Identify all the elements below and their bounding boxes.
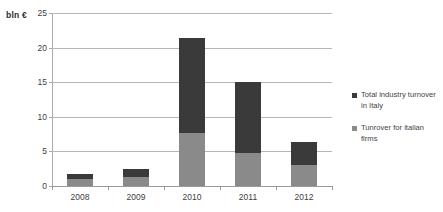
- legend-item-turnover-italian-firms: Tunrover for italian firms: [352, 123, 440, 144]
- bar-group-2008[interactable]: [67, 13, 93, 186]
- x-axis-label-2011: 2011: [239, 192, 257, 202]
- bar-segment-total-industry-2011[interactable]: [235, 82, 261, 153]
- y-tick-mark-10: [49, 117, 52, 118]
- y-tick-label-5: 5: [42, 146, 47, 156]
- y-tick-label-15: 15: [38, 77, 47, 87]
- legend-label-turnover-italian-firms: Tunrover for italian firms: [361, 123, 440, 144]
- y-tick-label-20: 20: [38, 43, 47, 53]
- x-tick-mark-2: [164, 186, 165, 190]
- bar-group-2011[interactable]: [235, 13, 261, 186]
- x-axis-line: [52, 186, 333, 187]
- bar-segment-italian-firms-2012[interactable]: [291, 165, 317, 186]
- bar-segment-total-industry-2010[interactable]: [179, 38, 205, 133]
- chart-legend: Total industry turnover in Italy Tunrove…: [352, 90, 440, 156]
- x-tick-mark-4: [276, 186, 277, 190]
- plot-area: 0510152025: [52, 13, 332, 186]
- y-tick-mark-15: [49, 82, 52, 83]
- y-axis-unit-label: bln €: [6, 10, 27, 20]
- bar-segment-total-industry-2008[interactable]: [67, 174, 93, 180]
- bar-segment-italian-firms-2011[interactable]: [235, 153, 261, 186]
- bar-segment-italian-firms-2010[interactable]: [179, 133, 205, 186]
- y-axis-line: [52, 13, 53, 186]
- bar-segment-italian-firms-2009[interactable]: [123, 177, 149, 186]
- legend-label-total-industry-turnover: Total industry turnover in Italy: [361, 90, 440, 111]
- legend-swatch-dark: [352, 93, 357, 98]
- x-axis-label-2012: 2012: [295, 192, 314, 202]
- bar-group-2010[interactable]: [179, 13, 205, 186]
- x-tick-mark-3: [220, 186, 221, 190]
- y-tick-mark-5: [49, 151, 52, 152]
- x-axis-label-2009: 2009: [127, 192, 146, 202]
- x-axis-label-2008: 2008: [71, 192, 90, 202]
- y-tick-label-0: 0: [42, 181, 47, 191]
- y-tick-mark-20: [49, 48, 52, 49]
- bar-segment-total-industry-2012[interactable]: [291, 142, 317, 166]
- x-tick-mark-end: [332, 186, 333, 190]
- x-tick-mark-1: [108, 186, 109, 190]
- stacked-bar-chart: bln € 0510152025 20082009201020112012 To…: [0, 0, 443, 212]
- legend-swatch-light: [352, 126, 357, 131]
- y-tick-mark-25: [49, 13, 52, 14]
- legend-item-total-industry-turnover: Total industry turnover in Italy: [352, 90, 440, 111]
- y-tick-label-25: 25: [38, 8, 47, 18]
- bar-group-2012[interactable]: [291, 13, 317, 186]
- bar-group-2009[interactable]: [123, 13, 149, 186]
- bar-segment-total-industry-2009[interactable]: [123, 169, 149, 177]
- x-axis-label-2010: 2010: [183, 192, 202, 202]
- y-tick-label-10: 10: [38, 112, 47, 122]
- bar-segment-italian-firms-2008[interactable]: [67, 179, 93, 186]
- x-tick-mark-0: [52, 186, 53, 190]
